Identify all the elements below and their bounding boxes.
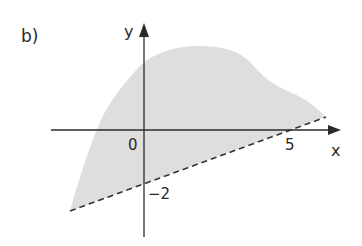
y-tick-label-neg2: −2 [148, 185, 170, 203]
shaded-region [70, 46, 325, 211]
x-tick-label-5: 5 [285, 136, 295, 154]
origin-label: 0 [128, 136, 138, 154]
coordinate-diagram: b) y x 0 5 −2 [0, 0, 362, 246]
part-label: b) [21, 26, 38, 46]
x-axis-arrow-icon [328, 125, 341, 135]
y-axis-arrow-icon [139, 23, 149, 37]
y-axis-label: y [124, 22, 133, 41]
x-axis-label: x [331, 141, 340, 160]
